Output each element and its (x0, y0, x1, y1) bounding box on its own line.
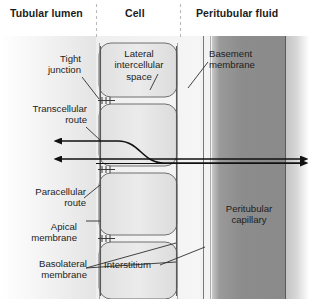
label-lateral-intercellular-space-line2: intercellular (104, 59, 174, 70)
label-interstitium-line1: Interstitium (104, 259, 174, 270)
label-tight-junction: Tight junction (1, 53, 81, 76)
label-basolateral-membrane-line1: Basolateral (0, 258, 87, 269)
peritubular-capillary-band (212, 36, 287, 299)
label-basement-membrane: Basement membrane (209, 48, 279, 71)
label-lateral-intercellular-space-line3: space (104, 71, 174, 82)
label-apical-membrane-line2: membrane (0, 232, 77, 243)
label-peritubular-capillary: Peritubular capillary (213, 203, 285, 226)
label-paracellular-route: Paracellular route (0, 186, 86, 209)
label-transcellular-route-line1: Transcellular (0, 103, 87, 114)
cell-body-2 (99, 104, 177, 166)
label-lateral-intercellular-space: Lateral intercellular space (104, 48, 174, 82)
label-basolateral-membrane-line2: membrane (0, 269, 87, 280)
capillary-right-edge (285, 36, 309, 299)
label-tight-junction-line1: Tight (1, 53, 81, 64)
nephron-transport-diagram: Tubular lumen Cell Peritubular fluid Tig… (0, 0, 309, 299)
diagram-canvas (0, 0, 309, 299)
header-cell: Cell (125, 7, 145, 19)
label-tight-junction-line2: junction (1, 64, 81, 75)
header-tubular-lumen: Tubular lumen (10, 7, 83, 19)
label-apical-membrane-line1: Apical (0, 221, 77, 232)
header-peritubular-fluid: Peritubular fluid (196, 7, 278, 19)
label-basolateral-membrane: Basolateral membrane (0, 258, 87, 281)
basement-membrane-band (200, 36, 214, 299)
label-transcellular-route-line2: route (0, 114, 87, 125)
cell-body-3 (99, 173, 177, 235)
label-basement-membrane-line2: membrane (209, 59, 279, 70)
label-basement-membrane-line1: Basement (209, 48, 279, 59)
label-interstitium: Interstitium (104, 259, 174, 270)
label-paracellular-route-line2: route (0, 197, 86, 208)
label-lateral-intercellular-space-line1: Lateral (104, 48, 174, 59)
label-peritubular-capillary-line1: Peritubular (213, 203, 285, 214)
cell-body-4 (99, 242, 177, 299)
label-transcellular-route: Transcellular route (0, 103, 87, 126)
label-apical-membrane: Apical membrane (0, 221, 77, 244)
label-peritubular-capillary-line2: capillary (213, 214, 285, 225)
label-paracellular-route-line1: Paracellular (0, 186, 86, 197)
